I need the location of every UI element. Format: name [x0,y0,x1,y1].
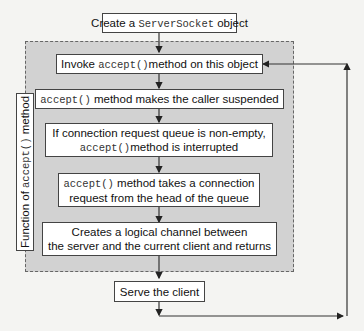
step-text: method on this object [149,58,258,70]
step-code: accept() [63,178,113,190]
start-text-end: object [214,17,248,29]
step-caller-suspended: accept() method makes the caller suspend… [35,89,284,109]
step-text: method makes the caller suspended [91,93,279,105]
step-code: accept() [40,94,90,106]
step-invoke-accept: Invoke accept()method on this object [56,54,263,74]
group-label-text: Function of [19,188,31,248]
serve-client-box: Serve the client [114,281,205,302]
group-label-code: accept() [20,138,32,188]
start-text: Create a [91,17,138,29]
step-text: If connection request queue is non-empty… [52,126,265,140]
step-create-channel: Creates a logical channel between the se… [42,222,277,256]
step-code: accept() [80,142,130,154]
step-text: method takes a connection [114,177,255,189]
serve-client-text: Serve the client [120,285,199,299]
group-label: Function of accept() method [16,93,34,251]
step-text: method is interrupted [130,141,238,153]
step-text: the server and the current client and re… [48,239,271,253]
step-queue-check: If connection request queue is non-empty… [45,123,273,157]
step-code: accept() [98,59,148,71]
start-code: ServerSocket [138,18,214,30]
step-text: Creates a logical channel between [72,225,248,239]
create-serversocket-box: Create a ServerSocket object [102,13,237,33]
step-take-request: accept() method takes a connection reque… [58,173,260,207]
step-text: request from the head of the queue [69,191,249,205]
step-text: Invoke [61,58,98,70]
group-label-text-end: method [19,96,31,138]
